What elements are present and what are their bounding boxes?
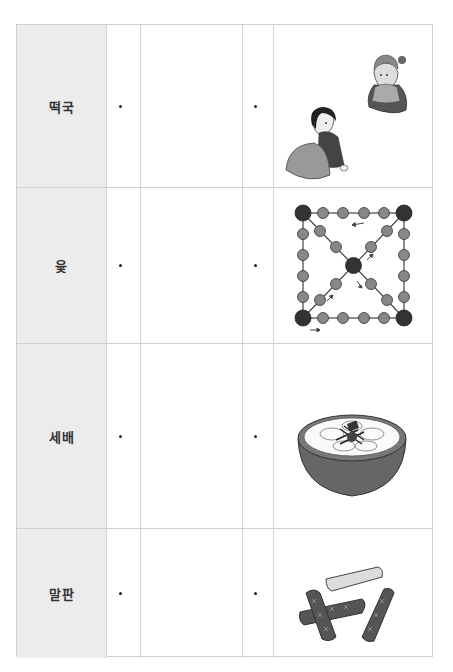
word-label: 윷: [55, 256, 68, 275]
tteokguk-bowl-illustration: [274, 344, 434, 529]
left-dot-cell: [107, 344, 141, 528]
left-dot-cell: [107, 529, 141, 658]
left-connector-dot[interactable]: [119, 264, 122, 267]
worksheet-row: 윷: [17, 188, 432, 344]
right-dot-cell: [243, 529, 274, 658]
yut-board-illustration: [274, 188, 434, 344]
connection-area[interactable]: [141, 188, 243, 343]
matching-worksheet: 떡국: [16, 24, 433, 657]
word-label: 세배: [49, 427, 74, 446]
right-connector-dot[interactable]: [254, 264, 257, 267]
label-cell: 말판: [17, 529, 107, 658]
right-dot-cell: [243, 25, 274, 187]
word-label: 떡국: [49, 97, 74, 116]
image-cell: [274, 25, 432, 187]
connection-area[interactable]: [141, 529, 243, 658]
connection-area[interactable]: [141, 344, 243, 528]
image-cell: [274, 529, 432, 658]
left-connector-dot[interactable]: [119, 592, 122, 595]
label-cell: 세배: [17, 344, 107, 528]
image-cell: [274, 188, 432, 343]
yut-sticks-illustration: [274, 529, 434, 658]
right-connector-dot[interactable]: [254, 592, 257, 595]
worksheet-row: 떡국: [17, 25, 432, 188]
right-connector-dot[interactable]: [254, 105, 257, 108]
right-dot-cell: [243, 188, 274, 343]
image-cell: [274, 344, 432, 528]
label-cell: 윷: [17, 188, 107, 343]
left-connector-dot[interactable]: [119, 435, 122, 438]
connection-area[interactable]: [141, 25, 243, 187]
left-connector-dot[interactable]: [119, 105, 122, 108]
sebae-bowing-illustration: [274, 25, 434, 188]
label-cell: 떡국: [17, 25, 107, 187]
word-label: 말판: [49, 584, 74, 603]
left-dot-cell: [107, 25, 141, 187]
worksheet-row: 말판: [17, 529, 432, 658]
right-connector-dot[interactable]: [254, 435, 257, 438]
worksheet-row: 세배: [17, 344, 432, 529]
left-dot-cell: [107, 188, 141, 343]
right-dot-cell: [243, 344, 274, 528]
